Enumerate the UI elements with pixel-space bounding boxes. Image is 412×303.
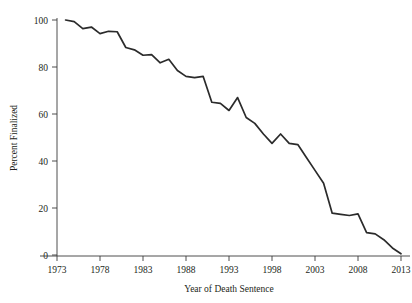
- x-tick-label-2008: 2008: [349, 265, 368, 275]
- x-axis-title: Year of Death Sentence: [184, 284, 274, 294]
- y-tick-label-100: 100: [34, 16, 49, 26]
- y-axis-title: Percent Finalized: [9, 105, 19, 171]
- chart-figure: 100 80 60 40 20 0 Percent Finalized 1973…: [0, 0, 412, 303]
- x-tick-label-2013: 2013: [392, 265, 411, 275]
- x-axis: 1973 1978 1983 1988 1993 1998 2003 2008 …: [40, 256, 411, 294]
- x-tick-label-1973: 1973: [48, 265, 67, 275]
- x-tick-label-1978: 1978: [91, 265, 110, 275]
- line-chart-svg: 100 80 60 40 20 0 Percent Finalized 1973…: [0, 0, 412, 303]
- x-tick-label-1983: 1983: [134, 265, 153, 275]
- x-tick-label-1993: 1993: [220, 265, 239, 275]
- y-tick-label-80: 80: [39, 63, 49, 73]
- y-tick-label-60: 60: [39, 110, 49, 120]
- data-series-line: [66, 20, 401, 254]
- x-tick-label-2003: 2003: [306, 265, 325, 275]
- x-tick-label-1998: 1998: [263, 265, 282, 275]
- x-tick-label-1988: 1988: [177, 265, 196, 275]
- y-tick-label-0: 0: [43, 251, 48, 261]
- y-tick-label-40: 40: [39, 157, 49, 167]
- y-tick-label-20: 20: [39, 204, 49, 214]
- y-axis: 100 80 60 40 20 0 Percent Finalized: [9, 16, 57, 261]
